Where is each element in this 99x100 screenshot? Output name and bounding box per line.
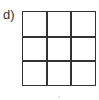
stray-mark	[58, 96, 60, 98]
grid-vertical-line-2	[70, 12, 72, 85]
grid-vertical-line-1	[46, 12, 48, 85]
grid-3x3	[22, 11, 96, 86]
grid-horizontal-line-2	[23, 60, 95, 62]
grid-horizontal-line-1	[23, 36, 95, 38]
figure-label: d)	[3, 8, 15, 22]
